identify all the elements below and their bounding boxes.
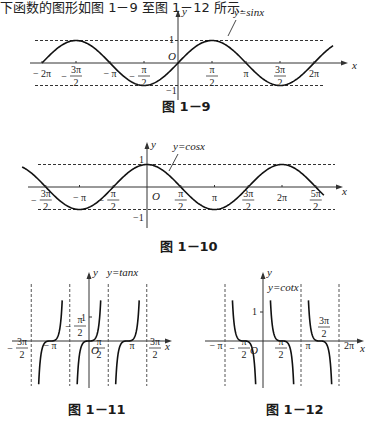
- function-label-tan: y=tanx: [106, 266, 138, 278]
- x-tick-label-4: π: [129, 340, 134, 351]
- x-tick-label-7: 2π: [309, 68, 319, 79]
- x-tick-label-0-num: 3π: [41, 188, 51, 199]
- x-tick-label-0-num: 3π: [17, 336, 27, 347]
- y-tick-1: 1: [252, 306, 257, 317]
- x-tick-label-4-num: π: [209, 64, 214, 75]
- origin-label: O: [250, 344, 258, 356]
- function-label-sin: y=sinx: [233, 6, 264, 18]
- x-tick-label-1-num: 3π: [71, 64, 81, 75]
- x-tick-label-5-den: 2: [246, 201, 251, 212]
- x-tick-label-5-den: 2: [153, 349, 158, 360]
- label-leader: [228, 20, 236, 36]
- x-tick-label-1-sign: −: [229, 343, 235, 354]
- x-tick-label-1-sign: −: [61, 71, 67, 82]
- x-tick-label-1-num: π: [241, 336, 246, 347]
- x-tick-label-2-num: π: [77, 314, 82, 325]
- function-label-cos: y=cosx: [172, 140, 205, 152]
- x-tick-label-3-den: 2: [142, 77, 147, 88]
- function-label-cot: y=cotx: [267, 281, 299, 293]
- y-axis-label: y: [181, 5, 187, 17]
- x-axis-label: x: [341, 185, 347, 197]
- cot-branch: [308, 300, 331, 384]
- x-tick-label-2-sign: −: [98, 195, 104, 206]
- x-tick-label-2: − π: [103, 68, 116, 79]
- y-axis-label: y: [150, 138, 156, 150]
- x-tick-label-7-den: 2: [313, 201, 318, 212]
- x-tick-label-0-den: 2: [20, 349, 25, 360]
- x-tick-label-6: 2π: [277, 192, 287, 203]
- x-tick-label-2-num: π: [111, 188, 116, 199]
- x-tick-label-2-den: 2: [279, 349, 284, 360]
- tan-branch: [116, 300, 140, 384]
- x-tick-label-3-num: π: [96, 336, 101, 347]
- x-tick-label-3-num: π: [178, 188, 183, 199]
- y-tick-1: 1: [139, 154, 144, 165]
- x-axis-label: x: [164, 340, 170, 352]
- y-axis-arrow-icon: [261, 272, 266, 279]
- x-tick-label-3-sign: −: [129, 71, 135, 82]
- x-tick-label-1-den: 2: [242, 349, 247, 360]
- caption-fig-1-9: 图 1－9: [162, 96, 211, 115]
- x-tick-label-4-den: 2: [210, 77, 215, 88]
- x-tick-label-4-num: 3π: [319, 315, 329, 326]
- x-tick-label-4: π: [212, 192, 217, 203]
- x-tick-label-7-num: 5π: [311, 188, 321, 199]
- x-tick-label-5: 2π: [344, 340, 354, 351]
- y-axis-arrow-icon: [176, 10, 181, 17]
- x-tick-label-0-sign: −: [7, 343, 13, 354]
- origin-label: O: [168, 50, 176, 62]
- x-axis-label: x: [351, 59, 357, 71]
- x-tick-label-5-num: 3π: [150, 336, 160, 347]
- x-tick-label-0: − 2π: [33, 68, 51, 79]
- caption-fig-1-10: 图 1－10: [160, 236, 218, 255]
- x-tick-label-3: π: [305, 340, 310, 351]
- x-tick-label-2-num: π: [278, 336, 283, 347]
- x-tick-label-6-num: 3π: [275, 64, 285, 75]
- y-axis-label: y: [92, 266, 98, 278]
- x-tick-label-6-den: 2: [278, 77, 283, 88]
- x-tick-label-5-num: 3π: [243, 188, 253, 199]
- x-tick-label-1: − π: [73, 192, 86, 203]
- x-tick-label-0-den: 2: [43, 201, 48, 212]
- x-tick-label-0-sign: −: [31, 195, 37, 206]
- y-tick-neg1: −1: [166, 85, 177, 96]
- y-tick-neg1: −1: [133, 212, 144, 223]
- label-leader: [169, 154, 178, 171]
- y-tick-1: 1: [169, 34, 174, 45]
- x-tick-label-2-den: 2: [111, 201, 116, 212]
- y-axis-label: y: [266, 266, 272, 278]
- x-axis-arrow-icon: [341, 61, 348, 66]
- x-tick-label-3-den: 2: [97, 349, 102, 360]
- x-axis-label: x: [359, 342, 365, 354]
- function-graphs: xyO1−1− 2π−3π2− π−π2π2π3π22πy=sinxxyO1−1…: [0, 0, 383, 421]
- caption-fig-1-12: 图 1－12: [266, 399, 324, 418]
- x-tick-label-3-num: π: [141, 64, 146, 75]
- x-tick-label-4-den: 2: [322, 328, 327, 339]
- x-tick-label-1: − π: [43, 340, 56, 351]
- x-tick-label-1-den: 2: [74, 77, 79, 88]
- caption-fig-1-11: 图 1－11: [68, 399, 126, 418]
- origin-label: O: [152, 190, 160, 202]
- x-tick-label-2-den: 2: [78, 327, 83, 338]
- x-tick-label-2-sign: −: [65, 321, 71, 332]
- x-tick-label-0: − π: [209, 340, 222, 351]
- x-tick-label-3-den: 2: [178, 201, 183, 212]
- y-axis-arrow-icon: [87, 272, 92, 279]
- x-tick-label-5: π: [243, 68, 248, 79]
- y-axis-arrow-icon: [145, 142, 150, 149]
